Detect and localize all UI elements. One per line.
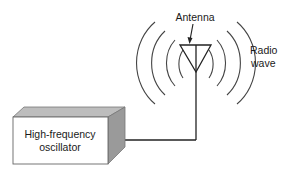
oscillator-box-side [108, 107, 125, 164]
radio-wave-arcs-left [137, 22, 183, 104]
radio-wave-label-line2: wave [250, 57, 276, 69]
oscillator-box-top [13, 107, 125, 117]
radio-wave-label-line1: Radio [250, 44, 278, 56]
radio-transmitter-diagram: Antenna Radio wave High-frequency oscill… [0, 0, 300, 177]
oscillator-label-line1: High-frequency [24, 128, 96, 140]
radio-wave-arcs-right [209, 22, 255, 104]
antenna-pointer-arrow [188, 24, 194, 44]
oscillator-label-line2: oscillator [39, 141, 81, 153]
antenna-label: Antenna [175, 11, 214, 23]
antenna [180, 45, 211, 140]
